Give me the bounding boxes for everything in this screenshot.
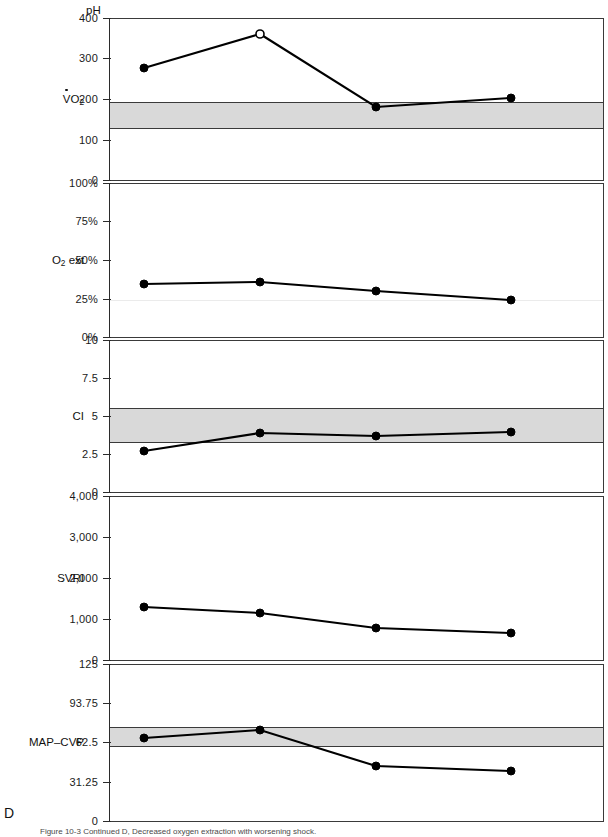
y-tick-ci-5	[103, 416, 111, 417]
y-ticklabel-vo2-400: 400	[79, 13, 98, 24]
y-ticklabel-map-cvp-31-25: 31.25	[69, 777, 98, 788]
y-ticklabel-map-cvp-125: 125	[79, 659, 98, 670]
y-tick-map-cvp-62-5	[103, 742, 111, 743]
y-ticklabel-svri-1000: 1,000	[69, 614, 98, 625]
y-tick-svri-4000	[103, 496, 111, 497]
y-ticklabel-o2ext-75: 75%	[75, 216, 98, 227]
y-tick-ci-10	[103, 340, 111, 341]
panel-o2ext: 100% 75% 50% 25% 0% O2 ext	[0, 183, 608, 338]
y-tick-o2ext-100	[103, 183, 111, 184]
y-tick-map-cvp-31-25	[103, 782, 111, 783]
y-tick-ci-2-5	[103, 454, 111, 455]
row-label-o2ext: O2 ext	[52, 254, 84, 270]
y-tick-svri-0	[103, 660, 111, 661]
series-o2ext	[110, 184, 604, 338]
y-ticklabel-ci-10: 10	[85, 335, 98, 346]
y-tick-o2ext-75	[103, 221, 111, 222]
plot-area-vo2	[110, 18, 604, 181]
panel-map-cvp: 125 93.75 62.5 31.25 0 MAP–CVP	[0, 664, 608, 822]
plot-area-ci	[110, 340, 604, 493]
y-ticklabel-svri-4000: 4,000	[69, 491, 98, 502]
y-tick-svri-2000	[103, 578, 111, 579]
y-ticklabel-o2ext-100: 100%	[69, 178, 98, 189]
panel-svri: 4,000 3,000 2,000 1,000 0 SVRI	[0, 496, 608, 661]
series-ci	[110, 341, 604, 493]
y-ticklabel-svri-3000: 3,000	[69, 532, 98, 543]
figure-panel-letter: D	[4, 806, 14, 820]
y-tick-vo2-400	[103, 18, 111, 19]
y-ticklabel-vo2-300: 300	[79, 53, 98, 64]
y-tick-svri-1000	[103, 619, 111, 620]
plot-area-o2ext	[110, 183, 604, 338]
y-tick-vo2-100	[103, 140, 111, 141]
y-tick-map-cvp-125	[103, 664, 111, 665]
y-tick-vo2-300	[103, 58, 111, 59]
y-tick-map-cvp-93-75	[103, 703, 111, 704]
y-tick-ci-7-5	[103, 378, 111, 379]
y-ticklabel-map-cvp-93-75: 93.75	[69, 698, 98, 709]
row-label-map-cvp: MAP–CVP	[29, 736, 84, 748]
y-ticklabel-map-cvp-0: 0	[92, 816, 98, 827]
row-label-vo2: VO2	[63, 93, 84, 109]
row-label-ci: CI	[73, 410, 85, 422]
plot-area-svri	[110, 496, 604, 661]
figure-caption: Figure 10-3 Continued D, Decreased oxyge…	[40, 827, 602, 837]
panel-ci: 10 7.5 5 2.5 0 CI	[0, 340, 608, 493]
y-ticklabel-o2ext-25: 25%	[75, 294, 98, 305]
y-tick-ci-0	[103, 492, 111, 493]
y-tick-o2ext-0	[103, 337, 111, 338]
series-vo2	[110, 19, 604, 181]
panel-vo2: 400 300 200 100 0 VO2	[0, 18, 608, 181]
y-ticklabel-ci-2-5: 2.5	[82, 449, 98, 460]
y-ticklabel-vo2-100: 100	[79, 135, 98, 146]
y-ticklabel-ci-7-5: 7.5	[82, 373, 98, 384]
y-ticklabel-ci-5: 5	[92, 411, 98, 422]
y-tick-vo2-200	[103, 99, 111, 100]
series-svri	[110, 497, 604, 661]
row-label-svri: SVRI	[57, 572, 84, 584]
y-tick-o2ext-25	[103, 299, 111, 300]
y-tick-o2ext-50	[103, 260, 111, 261]
series-map-cvp	[110, 665, 604, 822]
y-tick-map-cvp-0	[103, 821, 111, 822]
y-tick-vo2-0	[103, 180, 111, 181]
plot-area-map-cvp	[110, 664, 604, 822]
y-tick-svri-3000	[103, 537, 111, 538]
